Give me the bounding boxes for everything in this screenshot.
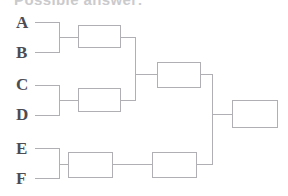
connector-final-vertical [212, 74, 213, 165]
connector-ab-to-match [59, 37, 79, 38]
seed-label-d: D [16, 106, 34, 123]
seed-label-c: C [16, 76, 34, 93]
connector-seed-e-stub [35, 148, 60, 149]
match-box-ab[interactable] [78, 25, 121, 48]
seed-label-a: A [16, 14, 34, 31]
connector-seed-b-stub [35, 52, 60, 53]
seed-label-f: F [16, 170, 34, 187]
connector-cd-winner-out [120, 100, 136, 101]
connector-seed-f-stub [35, 178, 60, 179]
connector-ab-winner-out [120, 37, 136, 38]
connector-final-feed [212, 114, 233, 115]
connector-seed-d-stub [35, 115, 60, 116]
match-box-semifinal-bottom[interactable] [152, 152, 197, 178]
bracket-diagram-canvas: Possible answer: A B C D E F [0, 0, 288, 196]
connector-top-semifinal-vertical [135, 37, 136, 101]
connector-cd-to-match [59, 100, 79, 101]
match-box-semifinal-top[interactable] [157, 62, 201, 88]
match-box-cd[interactable] [78, 88, 121, 112]
connector-semifinal-bottom-out [196, 164, 213, 165]
connector-seed-a-stub [35, 22, 60, 23]
match-box-final[interactable] [232, 100, 278, 128]
seed-label-e: E [16, 140, 34, 157]
connector-top-semifinal-feed [135, 74, 158, 75]
seed-label-b: B [16, 44, 34, 61]
caption-fragment-text: Possible answer: [14, 0, 244, 5]
connector-seed-c-stub [35, 85, 60, 86]
connector-ef-winner-out [112, 164, 153, 165]
match-box-ef[interactable] [68, 152, 113, 178]
